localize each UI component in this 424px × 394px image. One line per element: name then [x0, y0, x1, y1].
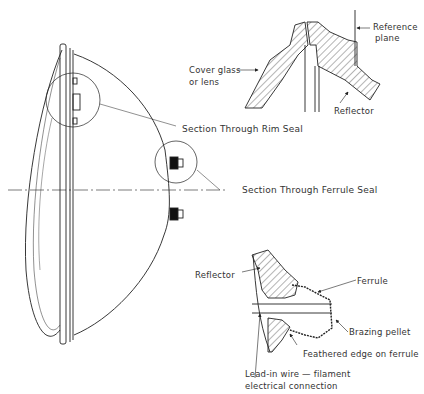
label-reference-plane-2: plane: [375, 33, 400, 43]
label-reference-plane-1: Reference: [373, 22, 418, 32]
label-feathered-edge: Feathered edge on ferrule: [303, 349, 419, 359]
rim-seal-section: [237, 10, 380, 112]
label-ferrule-seal: Section Through Ferrule Seal: [242, 185, 377, 195]
label-lead-in-wire-1: Lead-in wire — filament: [245, 369, 350, 379]
label-cover-glass-1: Cover glass: [189, 65, 241, 75]
label-rim-seal: Section Through Rim Seal: [182, 124, 303, 134]
label-reflector-bottom: Reflector: [195, 270, 235, 280]
label-brazing-pellet: Brazing pellet: [349, 327, 411, 337]
headlamp-side-view: [8, 44, 225, 344]
label-ferrule: Ferrule: [357, 276, 388, 286]
label-lead-in-wire-2: electrical connection: [245, 381, 338, 391]
label-reflector-top: Reflector: [334, 106, 374, 116]
label-cover-glass-2: or lens: [189, 77, 219, 87]
